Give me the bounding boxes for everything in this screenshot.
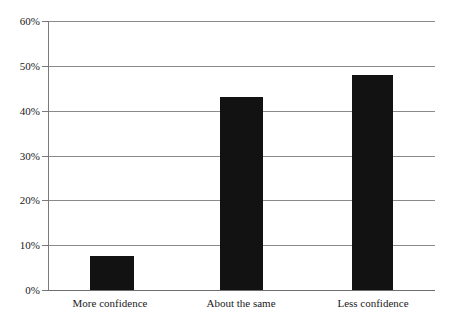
y-axis-label-60: 60%: [2, 16, 40, 27]
plot-area: [48, 21, 435, 290]
y-axis-label-20: 20%: [2, 195, 40, 206]
x-axis-label-less-confidence: Less confidence: [303, 298, 443, 309]
y-axis-labels: 60% 50% 40% 30% 20% 10% 0%: [0, 0, 40, 327]
x-axis-label-about-the-same: About the same: [171, 298, 311, 309]
y-axis-line: [48, 21, 49, 291]
y-tick-60: [42, 21, 48, 22]
x-axis-label-more-confidence: More confidence: [40, 298, 180, 309]
axis-baseline: [48, 290, 435, 291]
y-axis-label-40: 40%: [2, 105, 40, 116]
y-axis-label-50: 50%: [2, 60, 40, 71]
gridline-60: [48, 21, 435, 22]
y-axis-label-0: 0%: [2, 285, 40, 296]
y-tick-20: [42, 200, 48, 201]
y-axis-label-10: 10%: [2, 240, 40, 251]
y-tick-50: [42, 66, 48, 67]
y-axis-label-30: 30%: [2, 150, 40, 161]
y-tick-0: [42, 290, 48, 291]
y-tick-10: [42, 245, 48, 246]
gridline-50: [48, 66, 435, 67]
y-tick-40: [42, 111, 48, 112]
bar-chart: 60% 50% 40% 30% 20% 10% 0% More confiden…: [0, 0, 452, 327]
bar-more-confidence: [90, 256, 134, 290]
bar-less-confidence: [352, 75, 393, 290]
y-tick-30: [42, 156, 48, 157]
bar-about-the-same: [220, 97, 263, 290]
